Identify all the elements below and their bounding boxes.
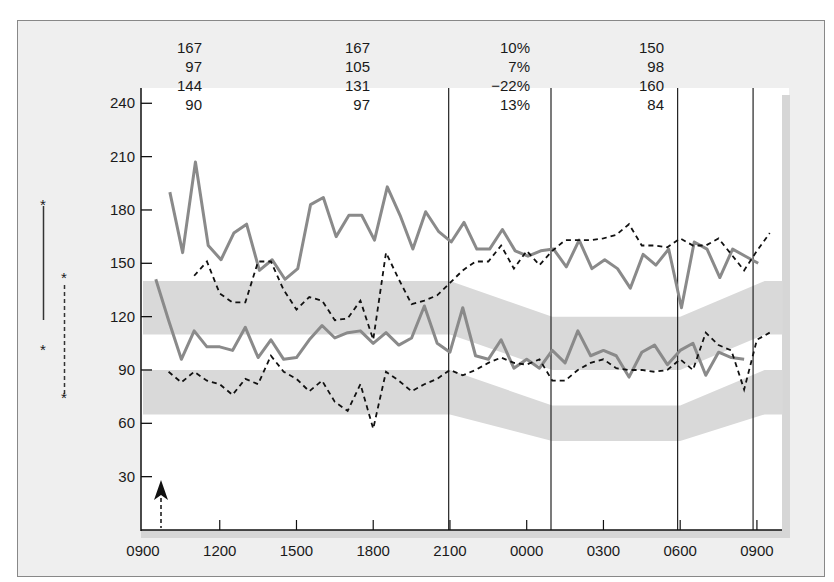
stat-value: 167 bbox=[177, 39, 202, 56]
x-tick-label: 1800 bbox=[357, 542, 390, 559]
stat-value: 84 bbox=[647, 96, 664, 113]
right-shadow-bar bbox=[782, 95, 790, 538]
legend-dashed-bottom-marker: * bbox=[61, 389, 67, 406]
stat-value: 160 bbox=[639, 77, 664, 94]
x-tick-label: 0300 bbox=[587, 542, 620, 559]
y-tick-label: 210 bbox=[110, 148, 135, 165]
x-tick-label: 2100 bbox=[433, 542, 466, 559]
bottom-shadow-bar bbox=[141, 530, 790, 538]
x-tick-label: 1500 bbox=[280, 542, 313, 559]
stat-value: 98 bbox=[647, 58, 664, 75]
stat-value: 105 bbox=[345, 58, 370, 75]
y-tick-label: 120 bbox=[110, 308, 135, 325]
x-tick-label: 0000 bbox=[510, 542, 543, 559]
stat-value: 7% bbox=[508, 58, 530, 75]
stat-value: 97 bbox=[185, 58, 202, 75]
y-tick-label: 30 bbox=[118, 468, 135, 485]
x-tick-label: 0900 bbox=[740, 542, 773, 559]
legend: * * * * bbox=[40, 196, 67, 406]
x-tick-label: 0600 bbox=[663, 542, 696, 559]
y-tick-label: 240 bbox=[110, 94, 135, 111]
stat-value: 144 bbox=[177, 77, 202, 94]
stat-value: 13% bbox=[500, 96, 530, 113]
stat-value: 167 bbox=[345, 39, 370, 56]
stat-value: 97 bbox=[353, 96, 370, 113]
stat-value: 131 bbox=[345, 77, 370, 94]
stat-value: 150 bbox=[639, 39, 664, 56]
stat-value: −22% bbox=[491, 77, 530, 94]
legend-dashed-top-marker: * bbox=[61, 269, 67, 286]
legend-solid-bottom-marker: * bbox=[40, 341, 46, 358]
y-tick-label: 180 bbox=[110, 201, 135, 218]
y-tick-label: 150 bbox=[110, 254, 135, 271]
y-tick-label: 60 bbox=[118, 414, 135, 431]
x-tick-label: 0900 bbox=[126, 542, 159, 559]
stat-value: 10% bbox=[500, 39, 530, 56]
x-tick-label: 1200 bbox=[203, 542, 236, 559]
stat-value: 90 bbox=[185, 96, 202, 113]
chart: 3060901201501802102400900120015001800210… bbox=[0, 0, 834, 582]
y-tick-label: 90 bbox=[118, 361, 135, 378]
